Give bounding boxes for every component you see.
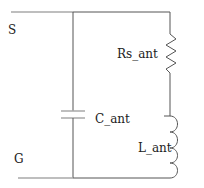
capacitor-label: C_ant — [95, 112, 130, 126]
ground-label: G — [14, 152, 24, 166]
circuit-diagram: S G C_ant Rs_ant L_ant — [0, 0, 204, 188]
resistor-zigzag — [166, 34, 176, 73]
source-label: S — [8, 23, 16, 37]
inductor-label: L_ant — [138, 141, 172, 155]
resistor-label: Rs_ant — [117, 47, 158, 61]
